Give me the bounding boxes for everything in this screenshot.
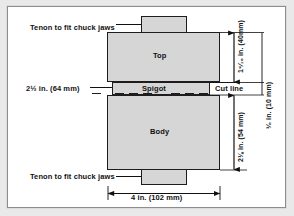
cut-dash-mark <box>171 93 180 94</box>
cut-dash-mark <box>115 93 124 94</box>
cut-dash-mark <box>199 93 208 94</box>
top-part-label: Top <box>153 51 167 60</box>
bottom-tenon-shape <box>141 169 187 185</box>
tenon-callout-top: Tenon to fit chuck jaws <box>30 23 115 32</box>
top-height-dimension-label: 1⁹⁄₁₆ in. (40mm) <box>237 20 244 73</box>
body-height-dimension-label: 2⅛ in. (54 mm) <box>237 112 244 162</box>
tenon-callout-bottom: Tenon to fit chuck jaws <box>30 172 115 181</box>
cut-line-label: Cut line <box>215 84 243 93</box>
cut-dash-mark <box>129 93 138 94</box>
figure-page: Top Body Spigot Cut line Tenon to fit ch… <box>0 0 294 216</box>
cut-dash-mark <box>185 93 194 94</box>
cut-dash-mark <box>143 93 152 94</box>
figure-frame: Top Body Spigot Cut line Tenon to fit ch… <box>7 6 286 208</box>
cut-dash-mark <box>92 93 101 94</box>
body-part-label: Body <box>150 127 169 136</box>
spigot-height-dimension-label: ³⁄₈ in. (10 mm) <box>265 82 272 129</box>
spigot-width-dimension-label: 2½ in. (64 mm) <box>26 84 80 93</box>
spigot-part-label: Spigot <box>142 84 166 93</box>
overall-width-dimension-label: 4 in. (102 mm) <box>131 193 182 202</box>
top-tenon-shape <box>141 16 187 33</box>
